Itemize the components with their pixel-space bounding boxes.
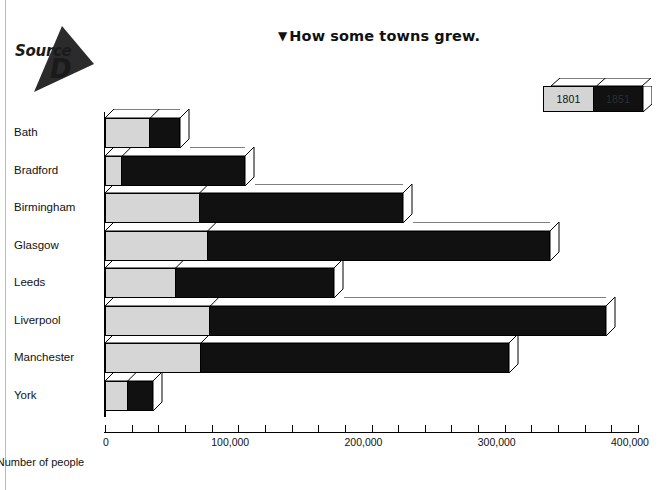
bar-manchester	[105, 343, 518, 373]
bar-side-face	[403, 184, 413, 224]
axis-tick	[505, 425, 506, 432]
axis-tick-label: 300,000	[478, 436, 516, 448]
axis-tick	[478, 425, 479, 432]
bar-liverpool	[105, 306, 615, 336]
bar-segment-1851-bradford	[122, 156, 245, 186]
category-label-glasgow: Glasgow	[14, 239, 98, 251]
axis-tick	[238, 425, 239, 432]
bar-segment-1801-birmingham	[105, 193, 200, 223]
bar-segment-1801-glasgow	[105, 231, 208, 261]
value-axis-line	[104, 432, 639, 433]
category-label-bradford: Bradford	[14, 164, 98, 176]
axis-tick	[158, 425, 159, 432]
bar-leeds	[105, 268, 343, 298]
bar-birmingham	[105, 193, 412, 223]
bar-segment-1851-leeds	[176, 268, 335, 298]
axis-tick	[265, 425, 266, 432]
bar-side-face	[245, 147, 255, 187]
axis-tick	[318, 425, 319, 432]
axis-tick-label: 200,000	[345, 436, 383, 448]
bar-segment-1801-leeds	[105, 268, 176, 298]
bar-side-face	[550, 222, 560, 262]
category-label-manchester: Manchester	[14, 351, 98, 363]
axis-tick	[585, 425, 586, 432]
bar-side-face	[606, 297, 616, 337]
axis-tick	[185, 425, 186, 432]
category-label-bath: Bath	[14, 126, 98, 138]
category-label-liverpool: Liverpool	[14, 314, 98, 326]
axis-tick	[212, 425, 213, 432]
category-label-leeds: Leeds	[14, 276, 98, 288]
category-label-york: York	[14, 389, 98, 401]
axis-tick	[425, 425, 426, 432]
bar-segment-1851-bath	[150, 118, 179, 148]
bar-segment-1801-york	[105, 381, 128, 411]
bar-bath	[105, 118, 189, 148]
bar-bradford	[105, 156, 254, 186]
axis-tick-label: 400,000	[611, 436, 649, 448]
axis-tick-label: 0	[103, 436, 109, 448]
bar-side-face	[509, 334, 519, 374]
bar-segment-1851-liverpool	[210, 306, 606, 336]
bar-side-face	[334, 259, 344, 299]
axis-tick	[558, 425, 559, 432]
axis-tick	[345, 425, 346, 432]
category-label-birmingham: Birmingham	[14, 201, 98, 213]
x-axis-title-wrap: Number of people	[0, 456, 661, 468]
bar-york	[105, 381, 162, 411]
axis-tick	[132, 425, 133, 432]
axis-tick	[292, 425, 293, 432]
bar-segment-1801-manchester	[105, 343, 201, 373]
bar-segment-1851-birmingham	[200, 193, 404, 223]
x-axis-title: Number of people	[0, 456, 84, 468]
bar-glasgow	[105, 231, 559, 261]
bar-segment-1851-manchester	[201, 343, 509, 373]
axis-tick	[638, 425, 639, 432]
axis-tick	[105, 425, 106, 432]
axis-tick-label: 100,000	[211, 436, 249, 448]
axis-tick	[451, 425, 452, 432]
axis-tick	[611, 425, 612, 432]
bar-segment-1801-liverpool	[105, 306, 210, 336]
bar-side-face	[180, 109, 190, 149]
bar-side-face	[153, 372, 163, 412]
bar-segment-1801-bradford	[105, 156, 122, 186]
axis-tick	[531, 425, 532, 432]
bar-segment-1851-york	[128, 381, 153, 411]
axis-tick	[372, 425, 373, 432]
axis-tick	[398, 425, 399, 432]
plot-area: BathBradfordBirminghamGlasgowLeedsLiverp…	[0, 0, 661, 490]
bar-segment-1851-glasgow	[208, 231, 550, 261]
bar-segment-1801-bath	[105, 118, 150, 148]
chart-page: Source D ▼How some towns grew. 1801 1851…	[0, 0, 661, 490]
